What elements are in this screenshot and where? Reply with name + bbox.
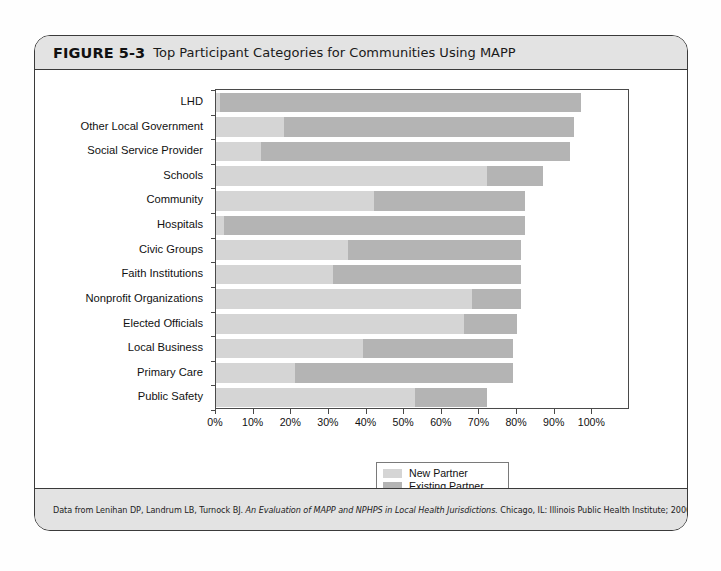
x-axis-tick (290, 409, 291, 414)
x-axis-tick (215, 409, 216, 414)
bar-segment-existing-partner (261, 142, 570, 162)
source-suffix: Chicago, IL: Illinois Public Health Inst… (498, 505, 688, 515)
y-axis-tick (211, 164, 216, 165)
bar-segment-new-partner (216, 363, 295, 383)
bar-segment-new-partner (216, 142, 261, 162)
y-axis-tick (211, 238, 216, 239)
bar-segment-new-partner (216, 314, 464, 334)
figure-page: FIGURE 5-3 Top Participant Categories fo… (0, 0, 721, 571)
x-axis-tick (554, 409, 555, 414)
x-axis-tick (253, 409, 254, 414)
bar-segment-existing-partner (415, 388, 487, 408)
bar-segment-new-partner (216, 216, 224, 236)
y-axis-label: Elected Officials (123, 311, 203, 336)
x-axis-tick (591, 409, 592, 414)
y-axis-tick (211, 312, 216, 313)
y-axis-tick (211, 139, 216, 140)
y-axis-label: Civic Groups (139, 237, 203, 262)
figure-footer: Data from Lenihan DP, Landrum LB, Turnoc… (35, 488, 687, 530)
x-axis-label: 30% (317, 416, 338, 428)
x-axis-label: 40% (355, 416, 376, 428)
bar-segment-new-partner (216, 388, 415, 408)
y-axis-label: Other Local Government (81, 114, 204, 139)
x-axis-label: 10% (242, 416, 263, 428)
legend-label-new-partner: New Partner (409, 467, 468, 479)
figure-title: Top Participant Categories for Communiti… (153, 45, 515, 60)
y-axis-label: Public Safety (138, 384, 203, 409)
bar-segment-new-partner (216, 265, 333, 285)
bar-segment-existing-partner (487, 166, 543, 186)
y-axis-tick (211, 262, 216, 263)
x-axis-label: 70% (468, 416, 489, 428)
bar-segment-new-partner (216, 240, 348, 260)
y-axis-tick (211, 336, 216, 337)
bar-segment-existing-partner (333, 265, 521, 285)
x-axis-tick (403, 409, 404, 414)
y-axis-tick (211, 385, 216, 386)
figure-header: FIGURE 5-3 Top Participant Categories fo… (35, 36, 687, 70)
legend-swatch-new-partner (383, 469, 402, 478)
bar-segment-new-partner (216, 339, 363, 359)
x-axis-label: 60% (430, 416, 451, 428)
bar-segment-new-partner (216, 166, 487, 186)
x-axis-tick (478, 409, 479, 414)
legend-item-new-partner: New Partner (383, 467, 501, 479)
x-axis-tick (366, 409, 367, 414)
bar-segment-existing-partner (224, 216, 525, 236)
x-axis-label: 100% (578, 416, 605, 428)
bar-segment-new-partner (216, 289, 472, 309)
bar-segment-existing-partner (472, 289, 521, 309)
bar-segment-existing-partner (284, 117, 574, 137)
figure-number: FIGURE 5-3 (53, 45, 145, 61)
y-axis-label: Hospitals (157, 212, 203, 237)
x-axis-label: 20% (280, 416, 301, 428)
y-axis-label: Primary Care (137, 360, 203, 385)
y-axis-label: Local Business (128, 335, 203, 360)
x-axis-label: 80% (505, 416, 526, 428)
bar-segment-new-partner (216, 191, 374, 211)
x-axis-label: 50% (393, 416, 414, 428)
x-axis-tick (441, 409, 442, 414)
y-axis-label: Social Service Provider (87, 138, 203, 163)
bar-segment-existing-partner (295, 363, 513, 383)
y-axis-label: Faith Institutions (122, 261, 203, 286)
source-title: An Evaluation of MAPP and NPHPS in Local… (246, 505, 498, 515)
x-axis-tick (516, 409, 517, 414)
bars-container (216, 90, 628, 408)
y-axis-tick (211, 188, 216, 189)
y-axis-tick (211, 90, 216, 91)
y-axis-tick (211, 213, 216, 214)
y-axis-label: Community (146, 187, 203, 212)
bar-segment-existing-partner (464, 314, 517, 334)
bar-segment-existing-partner (374, 191, 525, 211)
y-axis-tick (211, 287, 216, 288)
figure-source: Data from Lenihan DP, Landrum LB, Turnoc… (53, 505, 688, 515)
y-axis-labels: LHDOther Local GovernmentSocial Service … (35, 89, 211, 409)
bar-segment-existing-partner (220, 93, 581, 113)
figure-card: FIGURE 5-3 Top Participant Categories fo… (34, 35, 688, 531)
plot-frame (215, 89, 629, 409)
bar-segment-new-partner (216, 117, 284, 137)
source-prefix: Data from Lenihan DP, Landrum LB, Turnoc… (53, 505, 246, 515)
y-axis-tick (211, 115, 216, 116)
y-axis-label: LHD (181, 89, 203, 114)
y-axis-label: Nonprofit Organizations (85, 286, 203, 311)
x-axis-label: 90% (543, 416, 564, 428)
bar-segment-existing-partner (363, 339, 514, 359)
x-axis-tick (328, 409, 329, 414)
y-axis-label: Schools (163, 163, 203, 188)
bar-segment-existing-partner (348, 240, 521, 260)
y-axis-tick (211, 361, 216, 362)
x-axis-label: 0% (207, 416, 222, 428)
chart-area: LHDOther Local GovernmentSocial Service … (35, 70, 687, 488)
